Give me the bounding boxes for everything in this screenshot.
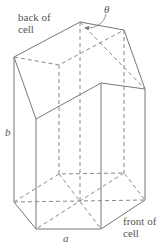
label-front-line1: front of: [123, 215, 156, 227]
label-b: b: [5, 126, 11, 138]
label-back-of-cell: back of cell: [18, 11, 51, 35]
hexagonal-cell-drawing: [0, 0, 165, 247]
top-face-hidden: [14, 30, 124, 65]
label-front-line2: cell: [123, 227, 156, 239]
label-front-of-cell: front of cell: [123, 215, 156, 239]
label-a: a: [63, 232, 69, 244]
label-theta: θ: [104, 3, 109, 15]
top-diagonal: [80, 22, 145, 89]
label-back-line1: back of: [18, 11, 51, 23]
label-back-line2: cell: [18, 23, 51, 35]
